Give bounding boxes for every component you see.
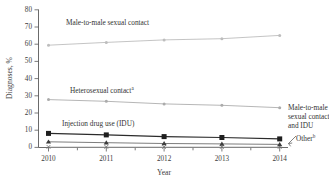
annotation-mmsc-and-idu-line2: sexual contact: [288, 112, 329, 121]
y-axis-title: Diagnoses, %: [5, 56, 14, 98]
series-idu: [46, 131, 282, 142]
y-tick-labels: 80 70 60 50 40 30 20 10 0: [25, 6, 33, 152]
figure-container: 80 70 60 50 40 30 20 10 0: [0, 0, 329, 187]
y-tick-label: 70: [25, 23, 33, 31]
x-tick-label: 2010: [41, 155, 56, 163]
x-tick-label: 2013: [215, 155, 230, 163]
annotation-mmsc-and-idu-line1: Male-to-male: [288, 103, 328, 112]
y-tick-label: 60: [25, 40, 33, 48]
y-tick-label: 10: [25, 126, 33, 134]
x-axis-title: Year: [157, 168, 171, 177]
annotation-injection-drug-use: Injection drug use (IDU): [62, 119, 135, 128]
series-heterosexual-contact-markers: [47, 98, 281, 109]
annotation-mmsc-and-idu-line3: and IDU: [288, 121, 314, 130]
series-male-to-male-sexual-contact-markers: [47, 34, 281, 47]
leader-arrowhead-other: [289, 143, 293, 146]
annotation-heterosexual-contact: Heterosexual contacta: [70, 85, 134, 95]
y-tick-label: 50: [25, 57, 33, 65]
annotation-other: Otherb: [296, 133, 316, 143]
annotation-other-superscript: b: [313, 133, 316, 139]
line-chart: 80 70 60 50 40 30 20 10 0: [0, 0, 329, 187]
series-male-to-male-sexual-contact: [47, 34, 281, 47]
series-heterosexual-contact: [47, 98, 281, 109]
y-ticks: [35, 10, 39, 148]
right-labels: Male-to-male sexual contact and IDU Othe…: [288, 103, 329, 146]
axes: 80 70 60 50 40 30 20 10 0: [5, 6, 288, 177]
x-tick-label: 2011: [99, 155, 114, 163]
annotation-heterosexual-contact-text: Heterosexual contact: [70, 86, 131, 95]
y-tick-label: 40: [25, 75, 33, 83]
y-tick-label: 80: [25, 6, 33, 14]
y-tick-label: 20: [25, 109, 33, 117]
x-tick-label: 2014: [273, 155, 288, 163]
series-idu-markers: [46, 131, 282, 142]
leader-line-other: [289, 136, 297, 144]
x-ticks: [49, 148, 280, 152]
y-tick-label: 30: [25, 92, 33, 100]
y-tick-label: 0: [28, 143, 32, 151]
annotation-male-to-male-sexual-contact: Male-to-male sexual contact: [66, 18, 149, 27]
annotation-heterosexual-contact-superscript: a: [131, 85, 134, 91]
series-mmsc-and-idu: [46, 139, 282, 146]
x-tick-labels: 2010 2011 2012 2013 2014: [41, 155, 287, 163]
x-tick-label: 2012: [157, 155, 172, 163]
annotation-other-text: Other: [296, 134, 313, 143]
series-mmsc-and-idu-markers: [46, 139, 282, 146]
series-annotations: Male-to-male sexual contact Heterosexual…: [62, 18, 149, 128]
